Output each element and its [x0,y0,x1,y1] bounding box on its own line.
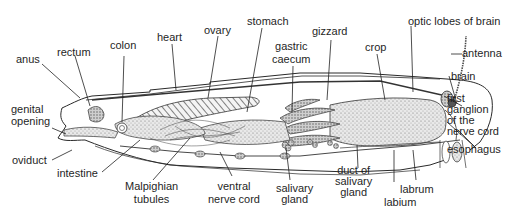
label-genital-opening-line1: genital [11,104,50,115]
label-genital-opening-line2: opening [11,116,50,127]
label-ventral-nerve-line1: ventral [208,181,260,192]
label-labrum: labrum [400,184,434,195]
label-oviduct: oviduct [12,155,47,166]
label-gastric-caecum-line2: caecum [272,54,311,65]
label-colon: colon [110,40,136,51]
label-esophagus: esophagus [447,144,501,155]
oviduct-shape [64,127,118,138]
label-intestine: intestine [57,168,98,179]
label-brain: brain [451,71,475,82]
label-ovary: ovary [204,25,231,36]
label-antenna: antenna [462,48,502,59]
label-malpighian-line1: Malpighian [125,181,178,192]
label-stomach: stomach [247,16,289,27]
label-malpighian-tubules: Malpighian tubules [125,181,178,205]
label-optic-lobes: optic lobes of brain [408,16,500,27]
label-malpighian-line2: tubules [125,194,178,205]
label-crop: crop [365,42,386,53]
label-duct-of-salivary-gland: duct of salivary gland [335,165,372,198]
label-duct-line3: gland [335,187,372,198]
colon-coil [117,123,127,133]
label-first-ganglion: first ganglion of the nerve cord [447,93,499,137]
label-ventral-nerve-line2: nerve cord [208,194,260,205]
label-salivary-gland: salivary gland [276,183,313,205]
label-rectum: rectum [57,47,91,58]
salivary-gland-clusters [282,140,339,152]
rectum-shape [88,107,104,122]
label-first-ganglion-line4: nerve cord [447,126,499,137]
label-heart: heart [157,32,182,43]
label-anus: anus [16,54,40,65]
antenna-shape [455,36,466,98]
crop-shape [330,98,446,146]
label-gizzard: gizzard [312,26,347,37]
label-gastric-caecum: gastric caecum [272,41,311,65]
label-genital-opening: genital opening [11,104,50,127]
label-ventral-nerve-cord: ventral nerve cord [208,181,260,205]
stomach-shape [200,120,290,145]
label-labium: labium [384,197,416,208]
heart-vessel [92,81,455,100]
label-salivary-gland-line2: gland [276,194,313,205]
label-gastric-caecum-line1: gastric [272,41,311,52]
